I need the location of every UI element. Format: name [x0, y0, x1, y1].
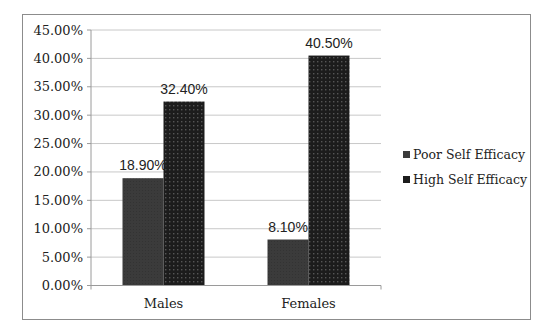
data-label: 18.90%: [119, 157, 166, 173]
x-axis-categories: MalesFemales: [144, 296, 336, 311]
legend-swatch: [403, 151, 410, 158]
legend-label: High Self Efficacy: [413, 172, 528, 187]
y-tick-label: 40.00%: [33, 51, 83, 66]
legend-item[interactable]: Poor Self Efficacy: [403, 147, 526, 162]
data-label: 32.40%: [160, 81, 207, 97]
y-tick-label: 15.00%: [33, 193, 83, 208]
y-tick-label: 0.00%: [42, 278, 83, 293]
legend-label: Poor Self Efficacy: [413, 147, 526, 162]
bar-high-self-efficacy-males[interactable]: [164, 102, 205, 286]
category-label: Females: [281, 296, 336, 311]
legend-item[interactable]: High Self Efficacy: [403, 172, 528, 187]
bar-chart: 0.00%5.00%10.00%15.00%20.00%25.00%30.00%…: [0, 0, 552, 335]
y-tick-label: 30.00%: [33, 108, 83, 123]
bar-poor-self-efficacy-females[interactable]: [268, 240, 309, 286]
y-tick-label: 5.00%: [42, 250, 83, 265]
y-tick-label: 10.00%: [33, 221, 83, 236]
y-axis-ticks: 0.00%5.00%10.00%15.00%20.00%25.00%30.00%…: [33, 23, 91, 294]
y-tick-label: 35.00%: [33, 79, 83, 94]
y-tick-label: 20.00%: [33, 164, 83, 179]
bar-high-self-efficacy-females[interactable]: [309, 56, 350, 286]
bar-poor-self-efficacy-males[interactable]: [123, 178, 164, 285]
data-label: 8.10%: [268, 219, 308, 235]
legend: Poor Self EfficacyHigh Self Efficacy: [403, 147, 528, 187]
y-tick-label: 25.00%: [33, 136, 83, 151]
legend-swatch: [403, 176, 410, 183]
y-tick-label: 45.00%: [33, 23, 83, 38]
category-label: Males: [144, 296, 184, 311]
data-label: 40.50%: [305, 35, 352, 51]
